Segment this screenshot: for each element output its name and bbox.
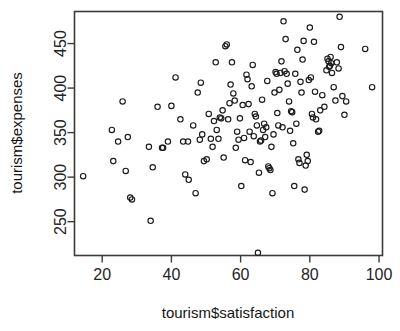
data-point [283,36,288,41]
data-point [249,84,254,89]
data-point [312,89,317,94]
data-point [271,132,276,137]
data-point [111,158,116,163]
data-point [363,46,368,51]
data-point [307,25,312,30]
data-point [178,117,183,122]
data-point [331,84,336,89]
data-point [195,90,200,95]
data-point [165,139,170,144]
data-point [241,135,246,140]
data-point [214,127,219,132]
data-point [293,71,298,76]
data-point [279,59,284,64]
data-point [115,139,120,144]
data-point [277,87,282,92]
data-point [186,177,191,182]
y-axis-tick-labels: 250300350400450 [52,30,69,235]
data-point [256,170,261,175]
data-point [233,145,238,150]
y-tick-label: 400 [52,75,69,102]
y-tick-label: 450 [52,30,69,57]
data-point [322,104,327,109]
data-point [197,137,202,142]
data-point [342,112,347,117]
data-point [169,103,174,108]
data-point [150,165,155,170]
data-point [297,160,302,165]
x-tick-label: 40 [163,266,181,283]
data-point [320,93,325,98]
y-tick-label: 350 [52,119,69,146]
data-point [301,38,306,43]
x-axis-ticks [102,256,379,263]
data-point [125,134,130,139]
data-point [221,155,226,160]
data-point [80,174,85,179]
data-point [304,152,309,157]
x-axis-title: tourism$satisfaction [162,304,295,321]
plot-canvas: 20406080100 250300350400450 tourism$sati… [0,0,400,331]
data-point [281,19,286,24]
data-point [296,157,301,162]
x-tick-label: 100 [366,266,393,283]
data-point [292,183,297,188]
data-point [148,218,153,223]
data-point [220,108,225,113]
data-point [193,190,198,195]
data-point [334,60,339,65]
data-point [340,93,345,98]
data-point [287,128,292,133]
data-point [183,172,188,177]
x-axis-tick-labels: 20406080100 [93,266,392,283]
data-point [228,82,233,87]
data-point [229,60,234,65]
data-point [299,90,304,95]
data-point [286,99,291,104]
data-point [300,57,305,62]
data-point [210,144,215,149]
data-point [239,183,244,188]
data-point [275,110,280,115]
data-point [232,98,237,103]
data-point [265,78,270,83]
data-point [206,111,211,116]
data-point [248,159,253,164]
data-point [309,111,314,116]
data-point [259,97,264,102]
data-point [270,190,275,195]
data-point [236,137,241,142]
data-point [305,158,310,163]
y-axis-title: tourism$expenses [8,72,25,194]
data-point [240,102,245,107]
data-point [254,123,259,128]
data-point [123,168,128,173]
data-point [251,133,256,138]
data-point [269,144,274,149]
data-point [262,134,267,139]
data-point [250,62,255,67]
y-tick-label: 250 [52,208,69,235]
data-point [231,91,236,96]
data-point [227,101,232,106]
data-point [294,121,299,126]
data-point [225,117,230,122]
data-point [146,144,151,149]
data-point [295,47,300,52]
data-point [298,79,303,84]
data-point [109,127,114,132]
data-point [191,123,196,128]
data-point [120,99,125,104]
data-point [329,70,334,75]
data-point [333,98,338,103]
data-point [198,80,203,85]
data-point [216,136,221,141]
data-point [302,187,307,192]
data-point [285,81,290,86]
data-point [237,116,242,121]
x-tick-label: 20 [93,266,111,283]
data-point [208,136,213,141]
data-point [213,60,218,65]
scatter-points-group [80,14,374,255]
data-point [247,129,252,134]
